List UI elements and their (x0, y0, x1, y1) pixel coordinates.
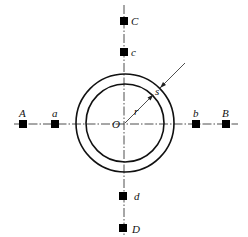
label-center-O: O (112, 118, 120, 130)
label-thickness-s: s (155, 85, 159, 97)
marker-C (120, 17, 128, 25)
label-d: d (134, 190, 140, 202)
label-a: a (52, 107, 58, 119)
pipe-diagram: A a b B C c d D O r s (0, 0, 248, 237)
marker-A (19, 120, 27, 128)
label-A: A (18, 107, 26, 119)
marker-c (120, 48, 128, 56)
label-c: c (131, 46, 136, 58)
radius-line (125, 95, 153, 123)
label-D: D (131, 223, 140, 235)
marker-d (119, 192, 127, 200)
marker-D (119, 224, 127, 232)
marker-b (192, 120, 200, 128)
label-B: B (222, 107, 229, 119)
label-C: C (131, 15, 139, 27)
label-b: b (193, 107, 199, 119)
label-radius-r: r (134, 105, 139, 117)
marker-a (51, 120, 59, 128)
marker-B (222, 120, 230, 128)
